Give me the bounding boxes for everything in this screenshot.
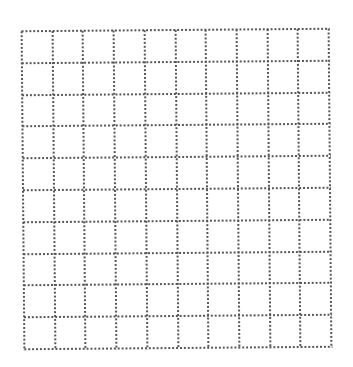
dotted-grid [21,28,333,351]
grid-vertical-line [328,28,333,348]
